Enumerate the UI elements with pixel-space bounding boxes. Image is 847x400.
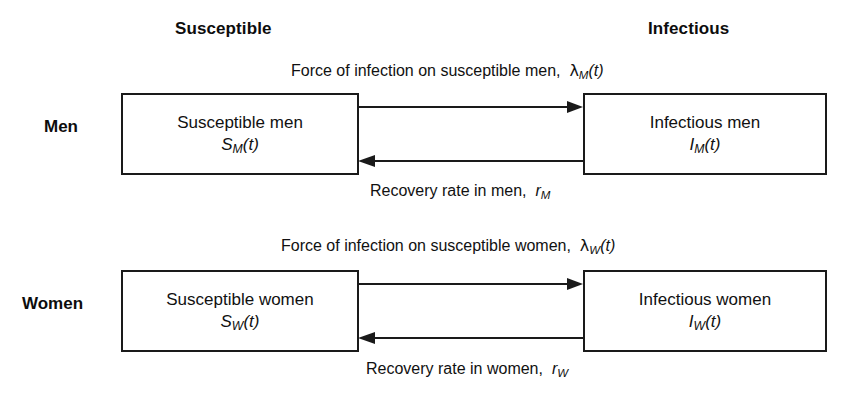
column-header-susceptible: Susceptible	[175, 19, 272, 39]
arrow-infection-men	[358, 96, 585, 118]
symbol-sub-M-susceptible: M	[233, 142, 243, 156]
lambda-glyph-women: λ	[580, 236, 589, 255]
symbol-base-S-men: S	[221, 135, 232, 154]
row-label-men: Men	[44, 117, 78, 137]
box-susceptible-women-title: Susceptible women	[166, 290, 313, 310]
box-susceptible-women-symbol: SW(t)	[221, 312, 260, 332]
recovery-women-text: Recovery rate in women,	[366, 360, 543, 377]
foi-women-argument: (t)	[600, 237, 615, 254]
foi-men-text: Force of infection on susceptible men,	[291, 62, 560, 79]
recovery-men-subscript: M	[541, 189, 551, 201]
lambda-glyph-men: λ	[569, 61, 578, 80]
edge-caption-force-of-infection-women: Force of infection on susceptible women,…	[281, 236, 615, 255]
foi-women-subscript: W	[589, 244, 600, 256]
recovery-men-text: Recovery rate in men,	[370, 182, 527, 199]
edge-caption-recovery-men: Recovery rate in men, rM	[370, 182, 550, 200]
foi-men-argument: (t)	[588, 62, 603, 79]
edge-caption-recovery-women: Recovery rate in women, rW	[366, 360, 568, 378]
box-infectious-men[interactable]: Infectious men IM(t)	[583, 93, 827, 175]
recovery-women-subscript: W	[557, 367, 568, 379]
row-label-women: Women	[22, 294, 83, 314]
symbol-arg-t-infectious-women: (t)	[705, 312, 721, 331]
transmission-model-diagram: Susceptible Infectious Men Women Force o…	[0, 0, 847, 400]
edge-caption-force-of-infection-men: Force of infection on susceptible men, λ…	[291, 61, 604, 80]
symbol-arg-t-susceptible-women: (t)	[243, 312, 259, 331]
box-infectious-women[interactable]: Infectious women IW(t)	[583, 270, 827, 352]
symbol-sub-M-infectious: M	[694, 142, 704, 156]
foi-women-text: Force of infection on susceptible women,	[281, 237, 571, 254]
box-susceptible-men-title: Susceptible men	[177, 113, 303, 133]
foi-women-symbol: λW(t)	[575, 237, 615, 254]
box-infectious-women-title: Infectious women	[639, 290, 771, 310]
foi-men-subscript: M	[579, 69, 589, 81]
recovery-men-symbol: rM	[531, 182, 550, 199]
box-susceptible-men[interactable]: Susceptible men SM(t)	[121, 93, 359, 175]
symbol-arg-t-susceptible-men: (t)	[243, 135, 259, 154]
recovery-women-symbol: rW	[547, 360, 568, 377]
symbol-base-S-women: S	[221, 312, 232, 331]
symbol-sub-W-infectious: W	[694, 319, 706, 333]
symbol-sub-W-susceptible: W	[232, 319, 244, 333]
foi-men-symbol: λM(t)	[565, 62, 604, 79]
box-infectious-women-symbol: IW(t)	[689, 312, 721, 332]
symbol-arg-t-infectious-men: (t)	[704, 135, 720, 154]
box-infectious-men-title: Infectious men	[650, 113, 761, 133]
column-header-infectious: Infectious	[648, 19, 729, 39]
box-infectious-men-symbol: IM(t)	[690, 135, 721, 155]
box-susceptible-women[interactable]: Susceptible women SW(t)	[121, 270, 359, 352]
arrow-infection-women	[358, 273, 585, 295]
arrow-recovery-women	[358, 327, 585, 349]
box-susceptible-men-symbol: SM(t)	[221, 135, 259, 155]
arrow-recovery-men	[358, 150, 585, 172]
